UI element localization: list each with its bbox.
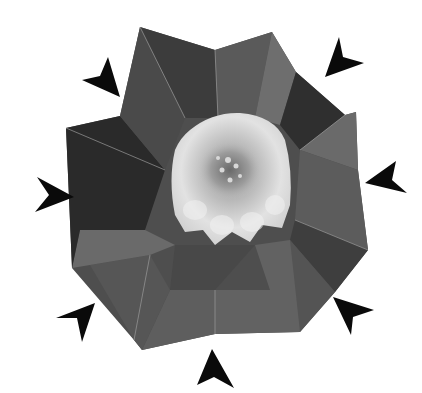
- arrow-bottom-right-icon: [333, 297, 374, 335]
- arrow-left-icon: [35, 177, 74, 212]
- arrow-bottom-left-icon: [56, 303, 95, 342]
- arrow-bottom-icon: [197, 349, 234, 388]
- arrow-top-right-icon: [325, 37, 364, 77]
- arrow-top-left-icon: [82, 57, 120, 97]
- flower-center: [198, 140, 262, 200]
- arrow-right-icon: [365, 161, 407, 193]
- origami-flower-photo: [0, 0, 422, 393]
